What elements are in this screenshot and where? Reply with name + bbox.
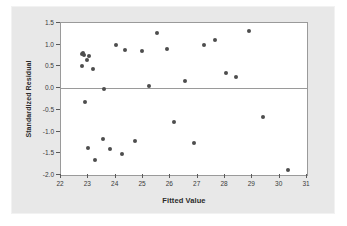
data-point [80, 64, 84, 68]
x-axis-tick [279, 174, 280, 178]
x-axis-tick [169, 174, 170, 178]
x-axis-tick-label: 24 [111, 180, 118, 187]
x-axis-tick-label: 28 [220, 180, 227, 187]
y-axis-title-wrapper: Standardized Residual [21, 22, 35, 176]
x-axis-tick-label: 22 [56, 180, 63, 187]
zero-reference-line [61, 88, 307, 89]
x-axis-tick [306, 174, 307, 178]
x-axis-tick [197, 174, 198, 178]
data-point [224, 71, 228, 75]
data-point [85, 58, 89, 62]
data-point [123, 48, 127, 52]
x-axis-tick-label: 31 [302, 180, 309, 187]
data-point [155, 31, 159, 35]
x-axis-tick [142, 174, 143, 178]
y-axis-tick [56, 152, 60, 153]
x-axis-tick-label: 26 [166, 180, 173, 187]
x-axis-tick-label: 23 [84, 180, 91, 187]
x-axis-tick [60, 174, 61, 178]
data-point [93, 158, 97, 162]
data-point [82, 53, 86, 57]
data-point [213, 38, 217, 42]
data-point [102, 87, 106, 91]
y-axis-tick [56, 65, 60, 66]
chart-figure: 1.51.00.50.0-0.5-1.0-1.5-2.0 22232425262… [11, 6, 335, 214]
data-point [87, 54, 91, 58]
scatter-plot-area [60, 22, 308, 176]
data-point [247, 29, 251, 33]
data-point [101, 137, 105, 141]
data-point [108, 147, 112, 151]
x-axis-tick-label: 30 [275, 180, 282, 187]
data-point [91, 67, 95, 71]
data-point [120, 152, 124, 156]
data-point [234, 75, 238, 79]
x-axis-tick-label: 29 [248, 180, 255, 187]
data-point [202, 43, 206, 47]
data-point [114, 43, 118, 47]
data-point [140, 49, 144, 53]
data-point [261, 115, 265, 119]
data-point [83, 100, 87, 104]
y-axis-tick [56, 22, 60, 23]
x-axis-tick-label: 25 [138, 180, 145, 187]
data-point [183, 79, 187, 83]
x-axis-tick [251, 174, 252, 178]
x-axis-title: Fitted Value [60, 196, 308, 205]
y-axis-tick [56, 44, 60, 45]
y-axis-tick [56, 131, 60, 132]
data-point [172, 120, 176, 124]
data-point [192, 141, 196, 145]
x-axis-tick [224, 174, 225, 178]
y-axis-title: Standardized Residual [25, 60, 32, 137]
x-axis-tick [115, 174, 116, 178]
data-point [286, 168, 290, 172]
x-axis-tick [87, 174, 88, 178]
x-axis-tick-label: 27 [193, 180, 200, 187]
data-point [86, 146, 90, 150]
y-axis-tick [56, 87, 60, 88]
data-point [133, 139, 137, 143]
data-point [165, 47, 169, 51]
y-axis-tick [56, 109, 60, 110]
